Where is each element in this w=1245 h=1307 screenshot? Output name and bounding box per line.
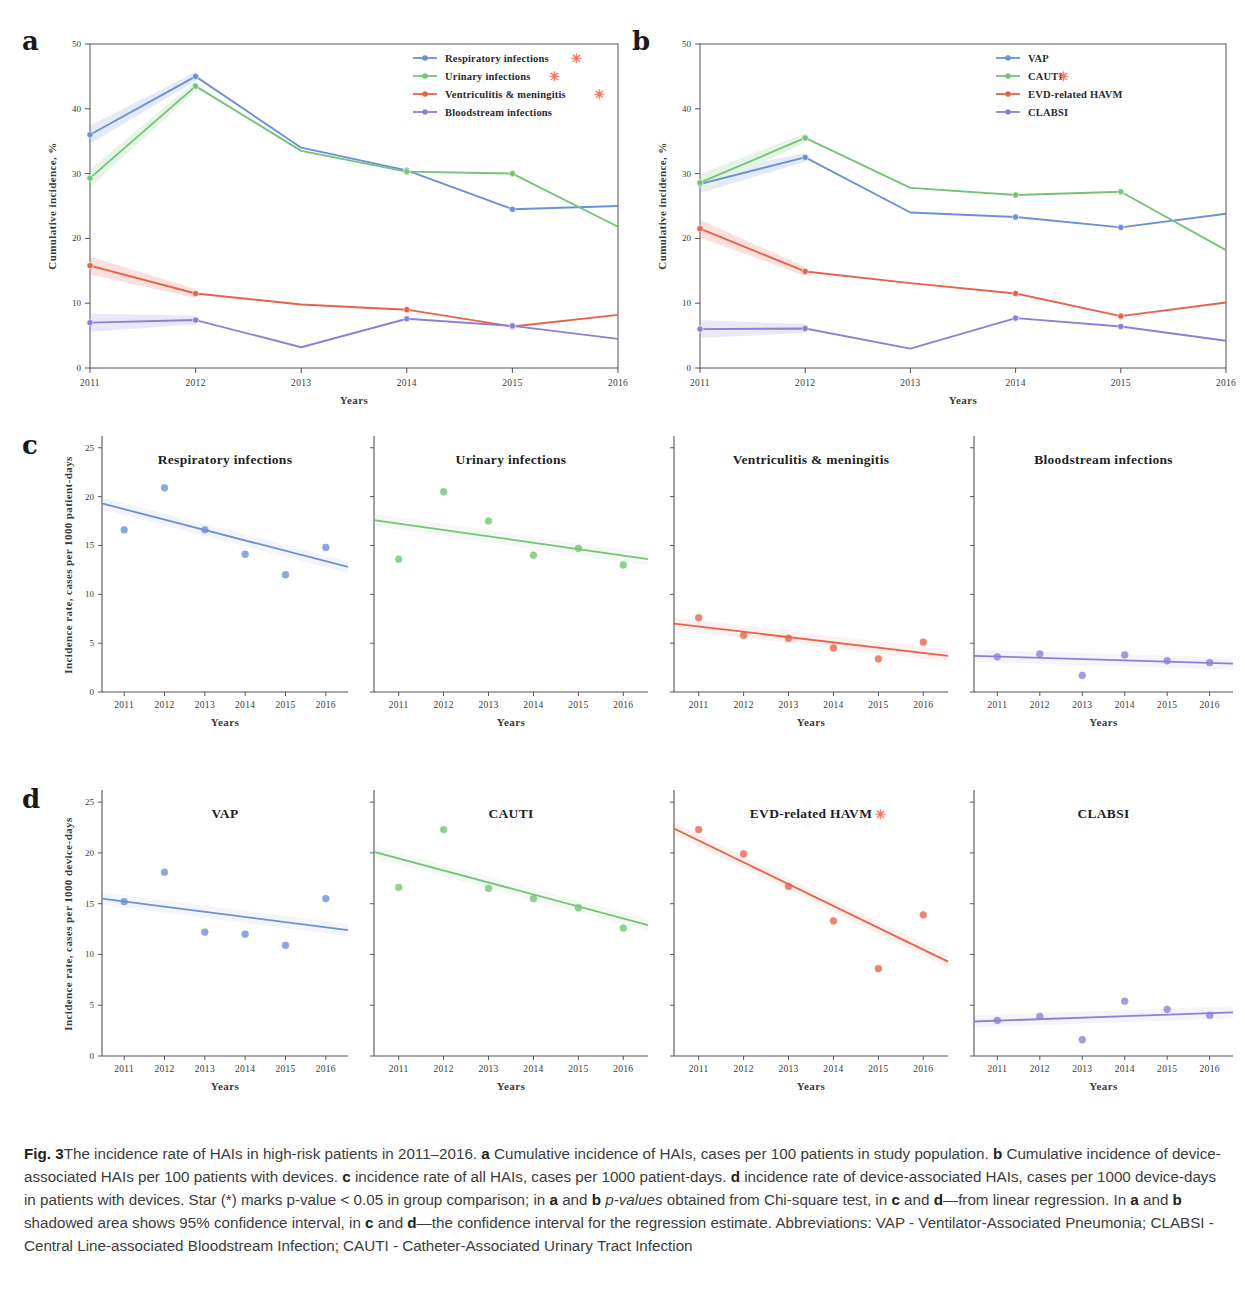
figure-caption: Fig. 3The incidence rate of HAIs in high… xyxy=(24,1142,1224,1257)
panel-d-4-chart: 201120122013201420152016YearsCLABSI xyxy=(960,778,1245,1108)
panel-c-1-title: Respiratory infections xyxy=(158,452,292,467)
panel-a-data-point xyxy=(404,307,410,313)
panel-b-legend-item[interactable]: CLABSI xyxy=(996,107,1068,118)
caption-ref-c: c xyxy=(342,1168,350,1185)
panel-d-3-xtick-label: 2012 xyxy=(734,1064,754,1074)
panel-a-data-point xyxy=(193,83,199,89)
panel-d-2-data-point xyxy=(440,826,447,833)
panel-a-xtick-label: 2014 xyxy=(397,378,417,388)
legend-label: Ventriculitis & meningitis xyxy=(445,89,566,100)
panel-c-4-data-point xyxy=(994,653,1001,660)
caption-t11: and xyxy=(1139,1191,1173,1208)
panel-b-data-point xyxy=(697,226,703,232)
panel-d-1-chart: 0510152025201120122013201420152016YearsI… xyxy=(50,778,360,1108)
panel-b-line xyxy=(700,138,1226,250)
panel-a-data-point xyxy=(509,171,515,177)
panel-a-series-3 xyxy=(87,316,618,348)
panel-a-legend-item[interactable]: Respiratory infections✳ xyxy=(413,51,582,66)
panel-c-2-data-point xyxy=(485,518,492,525)
panel-d-3-xtick-label: 2011 xyxy=(689,1064,709,1074)
panel-b-xtick-label: 2013 xyxy=(900,378,920,388)
panel-d-1-ytick-label: 25 xyxy=(85,797,95,807)
significance-star-icon: ✳ xyxy=(1058,69,1069,84)
panel-d-3-data-point xyxy=(695,826,702,833)
panel-d-2-data-point xyxy=(395,884,402,891)
panel-d-2-regression-line xyxy=(374,852,648,925)
panel-d-1-xtick-label: 2015 xyxy=(275,1064,295,1074)
panel-d-3-data-point xyxy=(830,918,837,925)
panel-c-1-ytick-label: 15 xyxy=(85,540,95,550)
caption-ref-a: a xyxy=(481,1145,489,1162)
legend-marker-icon xyxy=(422,109,428,115)
panel-c-1-ytick-label: 0 xyxy=(90,687,95,697)
panel-b-series-2 xyxy=(697,226,1226,320)
caption-t9: and xyxy=(900,1191,934,1208)
panel-d-1-xtick-label: 2011 xyxy=(114,1064,134,1074)
panel-b-legend-item[interactable]: VAP xyxy=(996,53,1049,64)
panel-d-1-ytick-label: 0 xyxy=(90,1051,95,1061)
panel-c-1-data-point xyxy=(282,571,289,578)
panel-a-data-point xyxy=(193,73,199,79)
panel-d-4-xtick-label: 2014 xyxy=(1115,1064,1135,1074)
caption-ref-b3: b xyxy=(1173,1191,1182,1208)
panel-b-data-point xyxy=(1118,323,1124,329)
panel-c-2-data-point xyxy=(620,562,627,569)
panel-d-4-data-point xyxy=(1121,998,1128,1005)
panel-c-3-plot-area: 201120122013201420152016YearsVentriculit… xyxy=(670,436,948,728)
panel-d-3-chart: 201120122013201420152016YearsEVD-related… xyxy=(660,778,960,1108)
caption-ref-a2: a xyxy=(549,1191,557,1208)
caption-ref-b2: b xyxy=(592,1191,601,1208)
panel-a-legend-item[interactable]: Bloodstream infections xyxy=(413,107,552,118)
panel-d-1-plot-area: 0510152025201120122013201420152016YearsI… xyxy=(62,790,348,1092)
panel-d-1-xtick-label: 2012 xyxy=(154,1064,174,1074)
panel-c-letter: c xyxy=(22,430,38,460)
panel-c-3-data-point xyxy=(830,645,837,652)
panel-a-xtick-label: 2011 xyxy=(80,378,100,388)
panel-b-legend-item[interactable]: CAUTI✳ xyxy=(996,69,1069,84)
panel-c-2-regression-line xyxy=(374,520,648,559)
panel-b-xtick-label: 2012 xyxy=(795,378,815,388)
panel-c-3-data-point xyxy=(695,614,702,621)
panel-d-1-yaxis-label: Incidence rate, cases per 1000 device-da… xyxy=(62,817,74,1031)
panel-d-4-plot-area: 201120122013201420152016YearsCLABSI xyxy=(970,790,1233,1092)
panel-a: a 01020304050201120122013201420152016Yea… xyxy=(22,26,632,416)
panel-d-4-xtick-label: 2012 xyxy=(1030,1064,1050,1074)
panel-c-1-yaxis-label: Incidence rate, cases per 1000 patient-d… xyxy=(62,456,74,674)
panel-b-xtick-label: 2011 xyxy=(690,378,710,388)
panel-a-data-point xyxy=(87,320,93,326)
panel-c-3-xtick-label: 2015 xyxy=(868,700,888,710)
panel-a-series-1 xyxy=(87,83,618,227)
panel-a-legend-item[interactable]: Ventriculitis & meningitis✳ xyxy=(413,87,605,102)
panel-a-ytick-label: 30 xyxy=(72,169,82,179)
panel-c-2-xtick-label: 2014 xyxy=(523,700,543,710)
panel-b-data-point xyxy=(697,326,703,332)
panel-d-3-plot-area: 201120122013201420152016YearsEVD-related… xyxy=(670,790,948,1092)
legend-marker-icon xyxy=(1005,91,1011,97)
panel-c-1-plot-area: 0510152025201120122013201420152016YearsI… xyxy=(62,436,348,728)
panel-d-4-data-point xyxy=(994,1017,1001,1024)
panel-a-data-point xyxy=(404,169,410,175)
panel-d-2-xtick-label: 2011 xyxy=(389,1064,409,1074)
panel-c-4-plot-area: 201120122013201420152016YearsBloodstream… xyxy=(970,436,1233,728)
panel-c-1-data-point xyxy=(322,544,329,551)
panel-d-1-data-point xyxy=(201,929,208,936)
panel-d-3-regression-line xyxy=(674,829,948,962)
panel-c-2-xaxis-label: Years xyxy=(497,716,526,728)
figure-3: a 01020304050201120122013201420152016Yea… xyxy=(0,0,1245,1307)
panel-b-legend: VAPCAUTI✳EVD-related HAVMCLABSI xyxy=(996,53,1123,118)
panel-c-3-data-point xyxy=(740,632,747,639)
panel-a-legend-item[interactable]: Urinary infections✳ xyxy=(413,69,560,84)
panel-c-2-xtick-label: 2011 xyxy=(389,700,409,710)
panel-b-legend-item[interactable]: EVD-related HAVM xyxy=(996,89,1123,100)
panel-b-xaxis-label: Years xyxy=(949,394,978,406)
panel-b: b 01020304050201120122013201420152016Yea… xyxy=(632,26,1240,416)
legend-label: Respiratory infections xyxy=(445,53,549,64)
panel-d-4-data-point xyxy=(1079,1036,1086,1043)
caption-ref-c3: c xyxy=(365,1214,373,1231)
panel-a-letter: a xyxy=(22,26,39,56)
legend-marker-icon xyxy=(1005,109,1011,115)
panel-a-legend: Respiratory infections✳Urinary infection… xyxy=(413,51,605,118)
panel-c-3-title: Ventriculitis & meningitis xyxy=(733,452,890,467)
panel-c-1-ytick-label: 5 xyxy=(90,638,95,648)
caption-t4: incidence rate of all HAIs, cases per 10… xyxy=(351,1168,731,1185)
